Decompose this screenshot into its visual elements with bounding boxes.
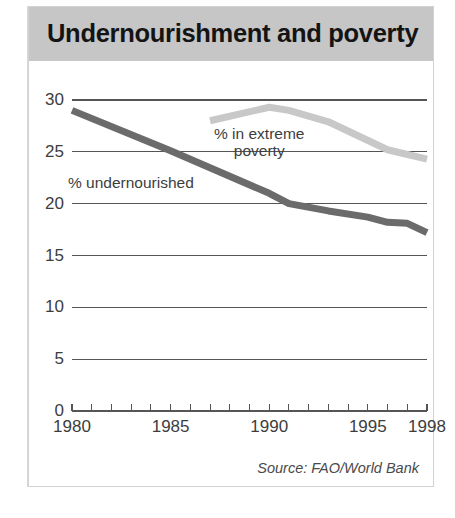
- y-tick-label: 5: [30, 349, 64, 369]
- x-tick-label: 1995: [338, 417, 398, 437]
- y-tick-label: 15: [30, 246, 64, 266]
- series-label-extreme-poverty-line1: % in extreme: [214, 126, 304, 143]
- series-label-extreme-poverty: % in extreme poverty: [214, 126, 304, 159]
- x-tick-label: 1990: [239, 417, 299, 437]
- chart-figure: Undernourishment and poverty Source: FAO…: [0, 0, 455, 518]
- series-label-extreme-poverty-line2: poverty: [214, 143, 304, 160]
- series-label-undernourished: % undernourished: [68, 175, 194, 192]
- x-tick-label: 1985: [141, 417, 201, 437]
- x-tick-label: 1998: [397, 417, 455, 437]
- y-tick-label: 30: [30, 90, 64, 110]
- y-tick-label: 20: [30, 194, 64, 214]
- chart-canvas: [0, 0, 455, 518]
- x-tick-label: 1980: [42, 417, 102, 437]
- y-tick-label: 25: [30, 142, 64, 162]
- x-tickmarks: [72, 404, 427, 411]
- y-tick-label: 10: [30, 297, 64, 317]
